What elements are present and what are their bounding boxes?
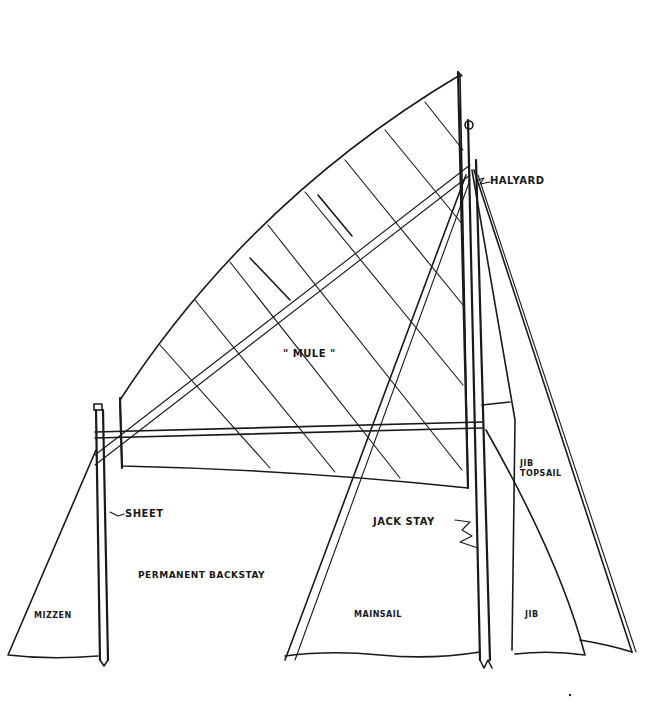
label-jack-stay: JACK STAY [372, 516, 435, 527]
label-halyard: HALYARD [490, 175, 544, 186]
label-jib: JIB [524, 610, 539, 619]
label-mainsail: MAINSAIL [354, 610, 402, 619]
mainmast [465, 120, 492, 668]
jack-stay-line [455, 520, 478, 548]
mule-boom [95, 422, 482, 438]
label-permanent-backstay: PERMANENT BACKSTAY [138, 570, 265, 580]
mizzen-sail [8, 450, 98, 658]
speck [569, 694, 571, 696]
label-mule: " MULE " [283, 348, 336, 359]
halyard-line [95, 175, 470, 465]
sail-rig-diagram: HALYARD " MULE " SHEET JACK STAY PERMANE… [0, 0, 664, 702]
label-jib-topsail-2: TOPSAIL [520, 469, 562, 478]
forestay [474, 170, 632, 652]
mainsail-foot [285, 652, 480, 657]
label-sheet: SHEET [125, 508, 164, 519]
mule-sail [120, 72, 468, 488]
label-mizzen: MIZZEN [34, 611, 72, 620]
mizzen-mast [94, 404, 108, 666]
label-jib-topsail-1: JIB [519, 459, 534, 468]
